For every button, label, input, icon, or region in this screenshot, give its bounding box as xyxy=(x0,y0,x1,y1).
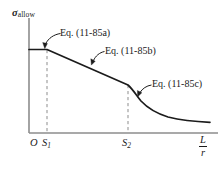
axis-tick-s2: S2 xyxy=(122,138,131,150)
y-axis-label: σallow xyxy=(12,8,35,19)
eq-a-arrowhead xyxy=(43,43,48,49)
eq-b-arrowhead xyxy=(91,59,95,65)
x-axis-label-numerator: L xyxy=(199,134,207,145)
annotation-eq-11-85b: Eq. (11-85b) xyxy=(105,46,156,56)
x-axis-label: L r xyxy=(199,134,207,158)
y-axis-subscript: allow xyxy=(18,10,35,19)
axis-tick-s1: S1 xyxy=(42,138,51,150)
axis-tick-s1-subscript: 1 xyxy=(47,141,51,150)
annotation-eq-11-85a: Eq. (11-85a) xyxy=(60,28,110,38)
axis-tick-s2-subscript: 2 xyxy=(127,141,131,150)
axis-tick-origin: O xyxy=(30,138,38,149)
eq-b-leader xyxy=(94,52,105,61)
eq-c-leader xyxy=(140,85,152,93)
eq-a-leader xyxy=(46,34,61,45)
annotation-eq-11-85c: Eq. (11-85c) xyxy=(152,79,202,89)
allowable-stress-vs-slenderness-figure: σallow Eq. (11-85a) Eq. (11-85b) Eq. (11… xyxy=(0,0,222,172)
x-axis-label-denominator: r xyxy=(199,147,207,158)
